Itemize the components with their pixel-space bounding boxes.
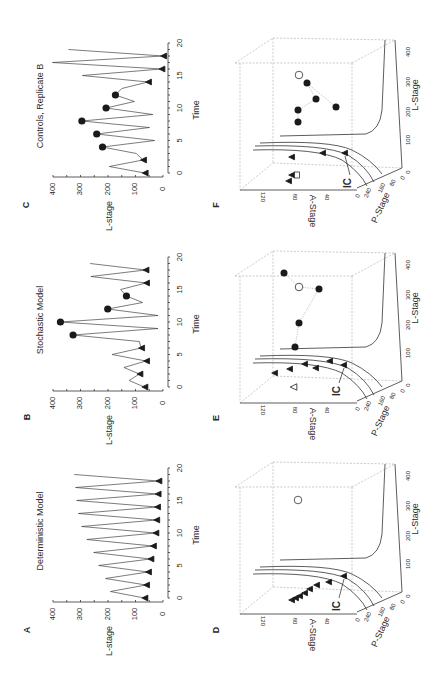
circle-marker	[313, 96, 320, 103]
y-tick-label: 400	[48, 608, 57, 621]
y-tick-label: 200	[103, 608, 112, 621]
circle-marker	[281, 270, 288, 277]
panel-letter: F	[211, 202, 221, 208]
open-circle-marker	[295, 71, 303, 79]
l-stage-axis-label: L-Stage	[410, 503, 420, 535]
a-stage-tick-label: 40	[324, 618, 330, 625]
panel-letter: A	[22, 626, 32, 633]
circle-marker	[99, 143, 106, 150]
x-tick-label: 5	[175, 352, 184, 356]
l-stage-axis-label: L-Stage	[410, 79, 420, 111]
l-stage-tick-label: 400	[405, 259, 411, 270]
panel-title: Stochastic Model	[35, 286, 45, 355]
panel-letter: B	[22, 413, 32, 420]
circle-marker	[112, 91, 119, 98]
y-tick-label: 300	[75, 183, 84, 196]
y-tick-label: 200	[103, 397, 112, 410]
ic-label: IC	[342, 178, 353, 188]
y-tick-label: 100	[130, 183, 139, 196]
x-tick-label: 0	[175, 385, 184, 389]
x-axis-label: Time	[191, 525, 201, 545]
open-circle-marker	[295, 283, 303, 291]
a-stage-axis-label: A-Stage	[308, 195, 318, 228]
circle-marker	[333, 104, 340, 111]
x-tick-label: 5	[175, 138, 184, 142]
l-stage-tick-label: 100	[405, 347, 411, 358]
x-tick-label: 15	[175, 285, 184, 293]
a-stage-tick-label: 80	[292, 407, 298, 414]
x-tick-label: 20	[175, 253, 184, 261]
l-stage-axis-label: L-Stage	[410, 292, 420, 324]
y-axis-label: L-stage	[104, 626, 114, 656]
figure-background	[0, 0, 444, 674]
l-stage-tick-label: 400	[405, 470, 411, 481]
y-axis-label: L-stage	[104, 201, 114, 231]
panel-letter: D	[211, 626, 221, 633]
x-tick-label: 10	[175, 104, 184, 112]
circle-marker	[69, 331, 76, 338]
y-tick-label: 0	[158, 612, 167, 616]
y-tick-label: 0	[158, 401, 167, 405]
l-stage-tick-label: 400	[405, 46, 411, 57]
circle-marker	[123, 292, 130, 299]
circle-marker	[295, 107, 302, 114]
figure: ADeterministic Model01002003004000510152…	[0, 0, 444, 674]
x-tick-label: 10	[175, 529, 184, 537]
y-tick-label: 300	[75, 608, 84, 621]
x-tick-label: 0	[175, 171, 184, 175]
y-tick-label: 300	[75, 397, 84, 410]
circle-marker	[292, 344, 299, 351]
circle-marker	[104, 305, 111, 312]
x-tick-label: 15	[175, 496, 184, 504]
x-tick-label: 0	[175, 596, 184, 600]
a-stage-tick-label: 120	[260, 192, 266, 203]
y-tick-label: 200	[103, 183, 112, 196]
y-tick-label: 100	[130, 608, 139, 621]
circle-marker	[102, 104, 109, 111]
y-tick-label: 100	[130, 397, 139, 410]
open-square-marker	[295, 172, 300, 178]
y-axis-label: L-stage	[104, 415, 114, 445]
a-stage-tick-label: 40	[324, 194, 330, 201]
panel-letter: C	[21, 201, 31, 208]
y-tick-label: 400	[48, 183, 57, 196]
circle-marker	[57, 318, 64, 325]
y-tick-label: 0	[158, 187, 167, 191]
a-stage-tick-label: 80	[292, 618, 298, 625]
a-stage-tick-label: 120	[260, 616, 266, 627]
x-tick-label: 15	[175, 71, 184, 79]
circle-marker	[296, 320, 303, 327]
l-stage-tick-label: 100	[405, 134, 411, 145]
a-stage-axis-label: A-Stage	[308, 408, 318, 441]
panel-letter: E	[211, 415, 221, 421]
panel-title: Deterministic Model	[35, 491, 45, 570]
ic-label: IC	[331, 386, 342, 396]
circle-marker	[304, 80, 311, 87]
ic-label: IC	[331, 601, 342, 611]
x-tick-label: 20	[175, 464, 184, 472]
a-stage-tick-label: 80	[292, 194, 298, 201]
a-stage-tick-label: 120	[260, 405, 266, 416]
x-axis-label: Time	[191, 100, 201, 120]
x-tick-label: 5	[175, 563, 184, 567]
y-tick-label: 400	[48, 397, 57, 410]
x-tick-label: 20	[175, 39, 184, 47]
panel-title: Controls, Replicate B	[35, 64, 45, 149]
l-stage-tick-label: 100	[405, 558, 411, 569]
x-axis-label: Time	[191, 314, 201, 334]
x-tick-label: 10	[175, 318, 184, 326]
a-stage-tick-label: 40	[324, 407, 330, 414]
circle-marker	[78, 117, 85, 124]
a-stage-axis-label: A-Stage	[308, 619, 318, 652]
circle-marker	[93, 130, 100, 137]
circle-marker	[316, 286, 323, 293]
open-circle-marker	[294, 496, 302, 504]
circle-marker	[295, 119, 302, 126]
